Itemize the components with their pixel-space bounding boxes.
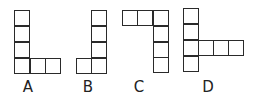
grid-cell bbox=[153, 26, 169, 42]
grid-cell bbox=[183, 40, 199, 56]
grid-cell bbox=[76, 58, 92, 74]
grid-cell bbox=[14, 42, 30, 58]
grid-cell bbox=[213, 40, 229, 56]
grid-cell bbox=[153, 42, 169, 58]
grid-cell bbox=[228, 40, 244, 56]
figure-label: A bbox=[18, 79, 38, 95]
figure-label: D bbox=[198, 79, 218, 95]
grid-cell bbox=[183, 8, 199, 24]
grid-cell bbox=[183, 56, 199, 72]
figure-label: C bbox=[129, 79, 149, 95]
grid-cell bbox=[91, 26, 107, 42]
grid-cell bbox=[45, 58, 61, 74]
grid-cell bbox=[14, 10, 30, 26]
grid-cell bbox=[153, 57, 169, 73]
grid-cell bbox=[122, 10, 138, 26]
grid-cell bbox=[91, 58, 107, 74]
grid-cell bbox=[91, 42, 107, 58]
grid-cell bbox=[30, 58, 46, 74]
figure-options-diagram: ABCD bbox=[0, 0, 256, 98]
grid-cell bbox=[153, 10, 169, 26]
grid-cell bbox=[198, 40, 214, 56]
grid-cell bbox=[14, 58, 30, 74]
grid-cell bbox=[183, 24, 199, 40]
grid-cell bbox=[14, 26, 30, 42]
figure-label: B bbox=[78, 79, 98, 95]
grid-cell bbox=[91, 10, 107, 26]
grid-cell bbox=[137, 10, 153, 26]
